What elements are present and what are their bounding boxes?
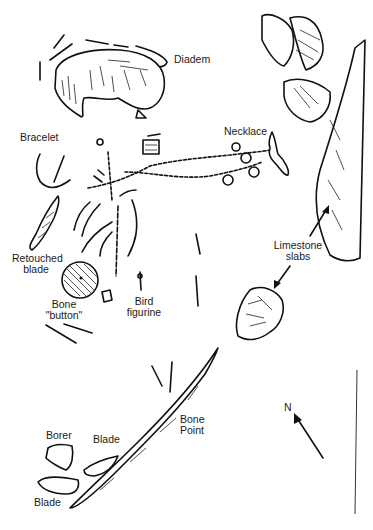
label-retouched-blade: Retouched blade bbox=[12, 253, 60, 275]
label-blade-upper: Blade bbox=[93, 434, 120, 445]
north-arrow-icon bbox=[294, 413, 323, 458]
label-bracelet: Bracelet bbox=[20, 132, 59, 143]
label-borer: Borer bbox=[46, 430, 72, 441]
necklace bbox=[88, 132, 288, 188]
limestone-slab-wall bbox=[262, 15, 365, 261]
label-limestone-slabs: Limestone slabs bbox=[270, 240, 326, 262]
bone-button bbox=[62, 262, 112, 302]
label-bone-button-line2: "button" bbox=[44, 310, 84, 321]
limestone-slab-loose bbox=[237, 288, 284, 340]
skull bbox=[55, 50, 164, 118]
blade-lower bbox=[38, 477, 79, 494]
label-north: N bbox=[284, 402, 292, 413]
label-bird-figurine: Bird figurine bbox=[124, 296, 164, 318]
vertebrae bbox=[94, 152, 118, 276]
label-necklace: Necklace bbox=[224, 126, 267, 137]
small-ring bbox=[97, 139, 103, 145]
frame-line bbox=[355, 370, 357, 514]
label-retouched-line2: blade bbox=[12, 264, 60, 275]
bracelet bbox=[37, 154, 70, 188]
label-diadem: Diadem bbox=[174, 54, 210, 65]
ribs bbox=[74, 190, 137, 256]
bird-figurine bbox=[138, 272, 142, 290]
label-bone-button: Bone "button" bbox=[44, 299, 84, 321]
retouched-blade bbox=[30, 196, 59, 250]
label-bone-point-line2: Point bbox=[180, 425, 205, 436]
label-bone-point: Bone Point bbox=[180, 414, 205, 436]
bead-cluster bbox=[143, 134, 160, 154]
label-limestone-line2: slabs bbox=[270, 251, 326, 262]
label-blade-lower: Blade bbox=[34, 497, 61, 508]
label-bird-line2: figurine bbox=[124, 307, 164, 318]
borer bbox=[46, 445, 73, 470]
